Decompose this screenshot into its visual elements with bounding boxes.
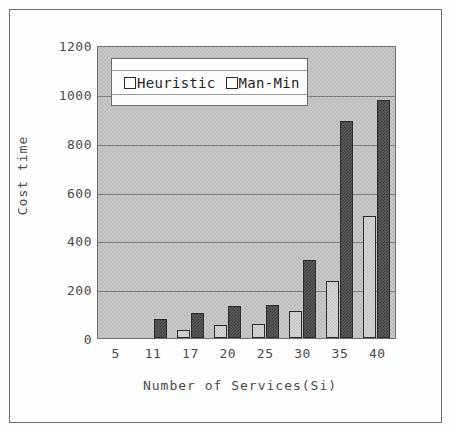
y-axis-tick-label: 0 [40,332,92,347]
x-axis-tick-label: 17 [172,346,209,368]
bar-heuristic-35 [326,281,339,338]
legend-entries: Heuristic Man-Min [112,70,307,95]
x-axis-tick-label: 25 [247,346,284,368]
y-axis-tick-labels: 020040060080010001200 [36,46,92,339]
x-axis-tick-label: 5 [97,346,134,368]
bar-group [358,47,395,338]
legend-label-manmin: Man-Min [239,75,300,91]
bar-man-min-17 [191,313,204,338]
chart-legend: Heuristic Man-Min [111,58,308,106]
x-axis-tick-label: 35 [321,346,358,368]
x-axis-title: Number of Services(Si) [60,378,420,393]
bar-man-min-30 [303,260,316,338]
bar-man-min-35 [340,121,353,338]
y-axis-tick-label: 1000 [40,87,92,102]
bar-heuristic-30 [289,311,302,338]
bar-man-min-11 [154,319,167,338]
x-axis-tick-label: 30 [284,346,321,368]
bar-chart-figure: Cost time 020040060080010001200 Heuristi… [0,0,453,433]
legend-entry-heuristic: Heuristic [124,75,216,91]
x-axis-tick-label: 40 [359,346,396,368]
heuristic-swatch-icon [124,77,136,89]
bar-heuristic-17 [177,330,190,338]
x-axis-tick-label: 11 [134,346,171,368]
y-axis-tick-label: 800 [40,136,92,151]
x-axis-tick-label: 20 [209,346,246,368]
y-axis-tick-label: 200 [40,283,92,298]
bar-group [321,47,358,338]
y-axis-tick-label: 400 [40,234,92,249]
bar-heuristic-25 [252,324,265,338]
x-axis-tick-labels: 511172025303540 [97,346,396,368]
bar-man-min-40 [377,100,390,338]
legend-label-heuristic: Heuristic [137,75,216,91]
legend-entry-manmin: Man-Min [226,75,300,91]
bar-heuristic-20 [214,325,227,338]
bar-heuristic-40 [363,216,376,338]
y-axis-tick-label: 1200 [40,39,92,54]
bar-man-min-25 [266,305,279,338]
bar-man-min-20 [228,306,241,338]
y-axis-title: Cost time [15,106,30,246]
y-axis-tick-label: 600 [40,185,92,200]
manmin-swatch-icon [226,77,238,89]
